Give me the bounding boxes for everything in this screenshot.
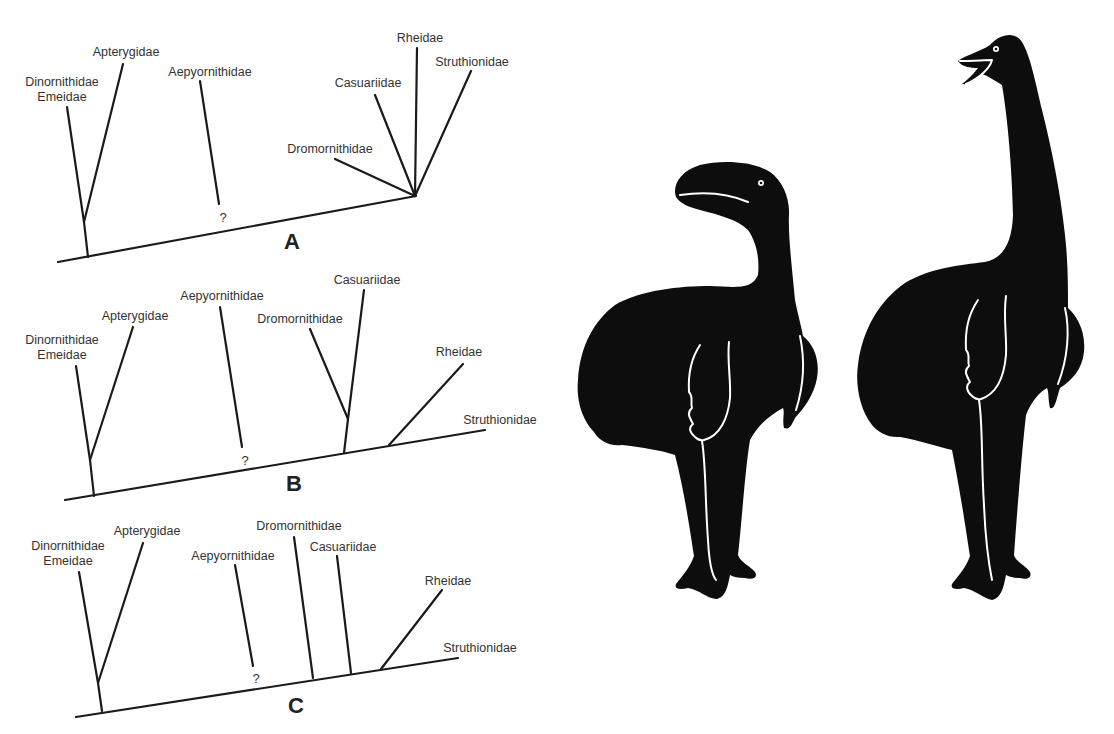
tree-c-uncertain-marker: ? (252, 671, 259, 686)
tree-a-label-rheidae: Rheidae (397, 31, 444, 45)
tree-b-label-dromornithidae: Dromornithidae (257, 312, 343, 326)
tree-b-branch-casuariidae (348, 290, 364, 419)
tree-b-label-rheidae: Rheidae (436, 345, 483, 359)
tree-a-uncertain-marker: ? (219, 210, 226, 225)
tree-c-branch-rheidae (381, 590, 442, 669)
tree-b-stem-moa-kiwi (90, 460, 94, 496)
tree-c-branch-dromornithidae (294, 537, 313, 678)
tree-c-label-aepyornithidae: Aepyornithidae (191, 549, 274, 563)
tree-a-panel-label: A (284, 229, 300, 254)
tree-a-trunk (58, 196, 416, 262)
tree-b-stem-casuariidae-dromornithidae (344, 419, 348, 453)
tree-c-label-emeidae: Emeidae (43, 554, 92, 568)
tree-c-branch-casuariidae (337, 556, 351, 673)
tree-c-branch-apterygidae (98, 543, 143, 683)
tree-b-label-aepyornithidae: Aepyornithidae (180, 289, 263, 303)
tree-a: Dinornithidae Emeidae Apterygidae Aepyor… (25, 31, 509, 262)
tree-b-label-dinornithidae: Dinornithidae (25, 333, 99, 347)
tree-c-panel-label: C (288, 693, 304, 718)
tree-a-label-apterygidae: Apterygidae (93, 45, 160, 59)
tree-b-branch-dinornithidae (76, 366, 90, 460)
tree-b-branch-rheidae (389, 364, 463, 445)
tree-a-branch-rheidae (415, 48, 417, 196)
tree-b-label-emeidae: Emeidae (37, 348, 86, 362)
tree-b-panel-label: B (286, 471, 302, 496)
tree-b-label-apterygidae: Apterygidae (102, 309, 169, 323)
tree-c-stem-moa-kiwi (98, 683, 102, 711)
tree-a-branch-dinornithidae (67, 107, 84, 222)
tree-b-uncertain-marker: ? (241, 453, 248, 468)
bird-silhouette-head-raised (857, 35, 1084, 600)
tree-b-branch-dromornithidae (310, 329, 348, 419)
tree-b-branch-aepyornithidae (220, 307, 242, 447)
tree-c-label-dromornithidae: Dromornithidae (256, 519, 342, 533)
tree-c-label-rheidae: Rheidae (425, 574, 472, 588)
tree-b-label-casuariidae: Casuariidae (334, 273, 401, 287)
tree-a-label-aepyornithidae: Aepyornithidae (168, 65, 251, 79)
tree-b-label-struthionidae: Struthionidae (463, 413, 537, 427)
tree-a-label-dinornithidae: Dinornithidae (25, 75, 99, 89)
tree-c-label-casuariidae: Casuariidae (310, 540, 377, 554)
tree-c-label-struthionidae: Struthionidae (443, 641, 517, 655)
tree-b: Dinornithidae Emeidae Apterygidae Aepyor… (25, 273, 537, 500)
tree-c: Dinornithidae Emeidae Apterygidae Aepyor… (31, 519, 517, 718)
tree-c-branch-dinornithidae (79, 572, 98, 683)
tree-a-stem-moa-kiwi (84, 222, 88, 257)
tree-a-label-dromornithidae: Dromornithidae (287, 142, 373, 156)
tree-a-label-casuariidae: Casuariidae (335, 76, 402, 90)
tree-a-label-struthionidae: Struthionidae (435, 55, 509, 69)
tree-a-label-emeidae: Emeidae (37, 90, 86, 104)
tree-a-branch-aepyornithidae (200, 81, 219, 204)
tree-b-trunk (65, 430, 485, 500)
tree-c-label-apterygidae: Apterygidae (114, 524, 181, 538)
tree-a-branch-struthionidae (415, 71, 471, 196)
tree-c-trunk (76, 658, 458, 717)
tree-c-label-dinornithidae: Dinornithidae (31, 539, 105, 553)
tree-c-branch-aepyornithidae (235, 565, 253, 666)
figure-canvas: Dinornithidae Emeidae Apterygidae Aepyor… (0, 0, 1114, 734)
bird-silhouette-head-lowered (578, 162, 818, 599)
